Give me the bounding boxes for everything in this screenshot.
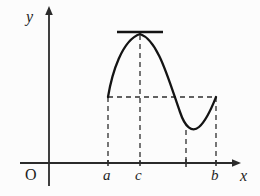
y-axis-arrowhead <box>45 6 53 15</box>
function-graph-figure: y x O a c b <box>0 0 260 196</box>
function-curve <box>108 34 216 129</box>
x-tick-label-a: a <box>103 168 111 183</box>
x-axis-label: x <box>240 168 247 184</box>
dashed-guides <box>108 35 216 163</box>
graph-canvas <box>0 0 260 196</box>
origin-label: O <box>25 167 37 183</box>
x-axis-arrowhead <box>232 159 241 167</box>
y-axis-label: y <box>26 9 33 25</box>
x-tick-label-b: b <box>211 168 219 183</box>
x-tick-label-c: c <box>135 168 142 183</box>
